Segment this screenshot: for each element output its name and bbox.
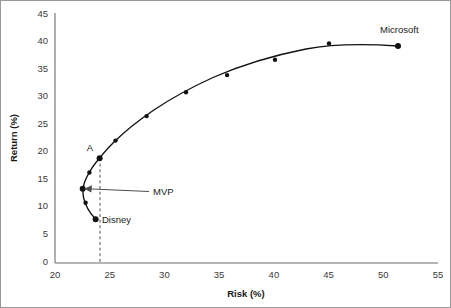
marker-microsoft <box>395 43 401 49</box>
efficient-frontier-curve <box>100 44 398 158</box>
y-tick-labels: 45 40 35 30 25 20 15 10 5 0 <box>37 8 48 267</box>
y-tick-0: 0 <box>43 256 48 267</box>
marker-lower-1 <box>87 170 91 174</box>
marker-point-a <box>97 155 103 161</box>
y-tick-30: 30 <box>37 90 48 101</box>
x-tick-40: 40 <box>269 269 280 280</box>
data-point-markers <box>80 41 401 222</box>
efficient-frontier-chart: 45 40 35 30 25 20 15 10 5 0 20 25 30 35 … <box>1 1 451 308</box>
chart-figure: 45 40 35 30 25 20 15 10 5 0 20 25 30 35 … <box>0 0 451 308</box>
marker-upper-2 <box>144 114 148 118</box>
x-tick-labels: 20 25 30 35 40 45 50 55 <box>50 269 444 280</box>
mvp-arrow-head <box>84 185 92 192</box>
x-tick-55: 55 <box>433 269 444 280</box>
marker-upper-6 <box>327 41 331 45</box>
mvp-leader-line <box>90 189 150 192</box>
x-tick-30: 30 <box>159 269 170 280</box>
marker-disney <box>93 216 99 222</box>
label-disney: Disney <box>102 214 131 225</box>
marker-upper-4 <box>225 73 229 77</box>
mvp-callout <box>84 185 149 192</box>
label-mvp: MVP <box>153 186 174 197</box>
x-axis-title: Risk (%) <box>227 288 264 299</box>
x-tick-35: 35 <box>214 269 225 280</box>
x-tick-25: 25 <box>104 269 115 280</box>
y-tick-15: 15 <box>37 173 48 184</box>
x-tick-50: 50 <box>378 269 389 280</box>
marker-upper-5 <box>273 58 277 62</box>
y-tick-5: 5 <box>43 228 48 239</box>
y-tick-10: 10 <box>37 200 48 211</box>
x-tick-20: 20 <box>50 269 61 280</box>
axis-group <box>55 13 438 263</box>
marker-upper-1 <box>113 138 117 142</box>
y-tick-25: 25 <box>37 118 48 129</box>
marker-upper-3 <box>184 90 188 94</box>
marker-lower-2 <box>83 201 87 205</box>
y-axis-title: Return (%) <box>8 114 19 162</box>
label-point-a: A <box>87 142 94 153</box>
y-tick-35: 35 <box>37 63 48 74</box>
x-tick-45: 45 <box>323 269 334 280</box>
y-tick-20: 20 <box>37 145 48 156</box>
y-tick-45: 45 <box>37 8 48 19</box>
label-microsoft: Microsoft <box>380 24 419 35</box>
y-tick-40: 40 <box>37 35 48 46</box>
